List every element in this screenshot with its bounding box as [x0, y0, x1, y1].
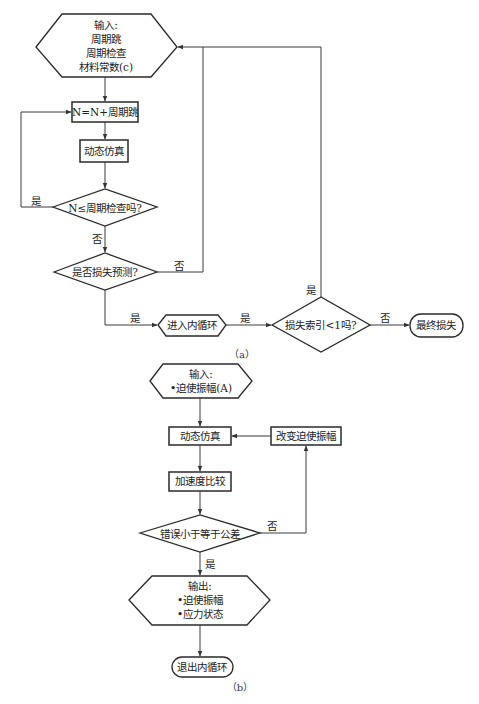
edge-label-cycle-no: 否 — [92, 231, 102, 246]
input-line-forcing-amplitude: •迫使振幅(A) — [170, 381, 232, 395]
input-title-b: 输入: — [170, 367, 232, 381]
edge-label-predict-yes: 是 — [130, 310, 140, 325]
caption-b: （b） — [227, 679, 253, 694]
edge-label-inner-yes: 是 — [240, 310, 250, 325]
edge-label-predict-no: 否 — [174, 258, 184, 273]
edge-label-cycle-yes: 是 — [31, 193, 41, 208]
final-damage-label: 最终损失 — [416, 319, 456, 331]
damage-index-label: 损失索引<1吗? — [285, 319, 356, 331]
change-amplitude-label: 改变迫使振幅 — [276, 430, 336, 442]
exit-inner-loop-label: 退出内循环 — [177, 661, 227, 673]
output-block: 输出: •迫使振幅 •应力状态 — [177, 579, 223, 621]
accel-compare-label: 加速度比较 — [175, 475, 225, 487]
input-title-a: 输入: — [79, 18, 133, 32]
input-line-cycle-check: 周期检查 — [79, 46, 133, 60]
input-line-material-constant: 材料常数(c) — [79, 60, 133, 74]
edge-label-index-no: 否 — [380, 310, 390, 325]
input-block-a: 输入: 周期跳 周期检查 材料常数(c) — [79, 18, 133, 74]
caption-a: （a） — [229, 346, 255, 361]
tolerance-label: 错误小于等于公差 — [160, 528, 240, 540]
simulation-label-b: 动态仿真 — [180, 430, 220, 442]
edge-label-tolerance-no: 否 — [267, 518, 277, 533]
output-line-forcing-amplitude: •迫使振幅 — [177, 593, 223, 607]
output-title: 输出: — [177, 579, 223, 593]
simulation-label-a: 动态仿真 — [84, 145, 124, 157]
output-line-stress-state: •应力状态 — [177, 607, 223, 621]
input-line-cycle-jump: 周期跳 — [79, 32, 133, 46]
increment-label: N=N+周期跳 — [72, 106, 138, 118]
damage-predict-label: 是否损失预测? — [72, 266, 138, 278]
input-block-b: 输入: •迫使振幅(A) — [170, 367, 232, 395]
edge-label-tolerance-yes: 是 — [205, 556, 215, 571]
cycle-check-label: N≤周期检查吗? — [68, 202, 142, 214]
enter-inner-loop-label: 进入内循环 — [167, 319, 217, 331]
edge-label-index-yes: 是 — [306, 282, 316, 297]
